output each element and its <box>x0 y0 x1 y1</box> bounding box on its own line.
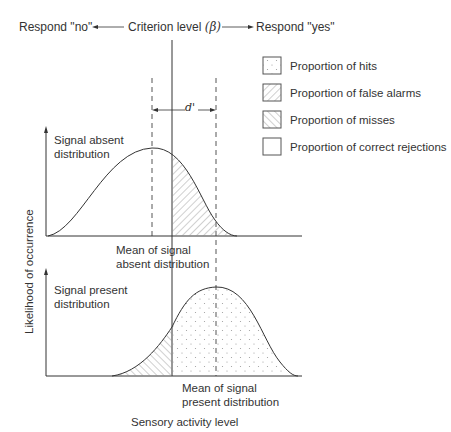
y-axis-label: Likelihood of occurrence <box>22 209 36 334</box>
absent-mean-line2: absent distribution <box>116 257 209 271</box>
legend-swatches <box>263 57 281 155</box>
d-prime-arrow <box>152 108 216 112</box>
legend-label-hits: Proportion of hits <box>290 59 377 73</box>
upper-panel-title: Signal absent distribution <box>54 133 124 161</box>
legend-swatch-misses <box>263 111 281 128</box>
x-axis-label: Sensory activity level <box>131 415 238 429</box>
present-mean-line2: present distribution <box>182 395 279 409</box>
absent-mean-line1: Mean of signal <box>116 243 209 257</box>
upper-title-line2: distribution <box>54 147 124 161</box>
lower-panel-title: Signal present distribution <box>54 283 128 311</box>
legend-swatch-hits <box>263 57 281 74</box>
legend-swatch-false-alarms <box>263 84 281 101</box>
lower-title-line1: Signal present <box>54 283 128 297</box>
upper-title-line1: Signal absent <box>54 133 124 147</box>
present-mean-label: Mean of signal present distribution <box>182 381 279 409</box>
hit-area <box>112 287 298 376</box>
legend-swatch-correct-rejections <box>263 138 281 155</box>
d-prime-label: d' <box>185 101 195 114</box>
header-arrows <box>92 25 254 29</box>
lower-title-line2: distribution <box>54 297 128 311</box>
false-alarm-area <box>48 148 237 236</box>
legend-label-misses: Proportion of misses <box>290 113 395 127</box>
legend-label-correct-rejections: Proportion of correct rejections <box>290 140 447 154</box>
legend-label-false-alarms: Proportion of false alarms <box>290 86 421 100</box>
present-mean-line1: Mean of signal <box>182 381 279 395</box>
signal-detection-diagram <box>0 0 451 432</box>
absent-mean-label: Mean of signal absent distribution <box>116 243 209 271</box>
